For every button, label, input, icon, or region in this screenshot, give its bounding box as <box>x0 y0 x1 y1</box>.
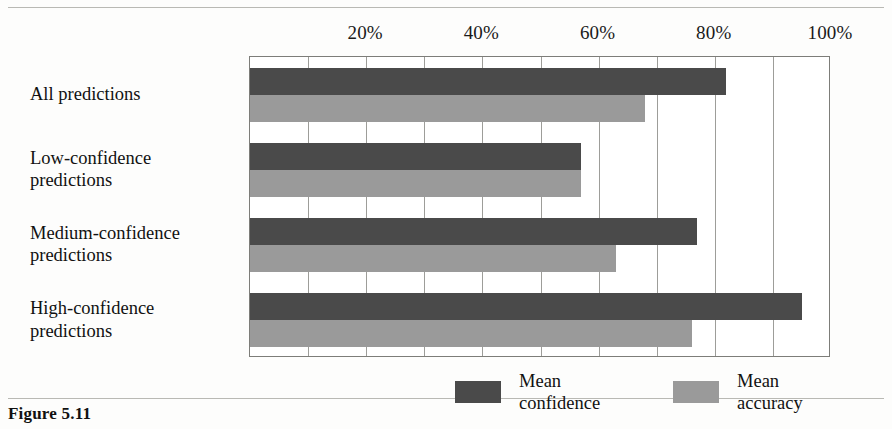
category-label-2: Medium-confidence predictions <box>30 222 238 266</box>
bar-accuracy-group-2 <box>250 245 616 272</box>
x-tick-label-60: 60% <box>580 22 615 44</box>
x-tick-label-40: 40% <box>464 22 499 44</box>
bar-confidence-group-3 <box>250 293 802 320</box>
plot-area <box>249 56 830 357</box>
category-label-0: All predictions <box>30 83 238 105</box>
legend-item-accuracy: Mean accuracy <box>673 370 803 414</box>
legend-swatch-confidence <box>455 381 501 403</box>
legend-label-confidence: Mean confidence <box>519 370 600 414</box>
category-label-1: Low-confidence predictions <box>30 147 238 191</box>
legend-item-confidence: Mean confidence <box>455 370 600 414</box>
bar-confidence-group-1 <box>250 143 581 170</box>
legend-label-accuracy: Mean accuracy <box>737 370 803 414</box>
category-label-3: High-confidence predictions <box>30 297 238 341</box>
x-tick-label-80: 80% <box>696 22 731 44</box>
x-tick-label-20: 20% <box>347 22 382 44</box>
figure-caption: Figure 5.11 <box>8 404 91 424</box>
bar-confidence-group-2 <box>250 218 697 245</box>
bar-accuracy-group-1 <box>250 170 581 197</box>
bar-accuracy-group-3 <box>250 320 692 347</box>
bar-confidence-group-0 <box>250 68 726 95</box>
bar-chart: 20%40%60%80%100% All predictionsLow-conf… <box>0 0 892 429</box>
x-tick-label-100: 100% <box>807 22 852 44</box>
legend-swatch-accuracy <box>673 381 719 403</box>
chart-legend: Mean confidenceMean accuracy <box>0 362 892 422</box>
bar-accuracy-group-0 <box>250 95 645 122</box>
